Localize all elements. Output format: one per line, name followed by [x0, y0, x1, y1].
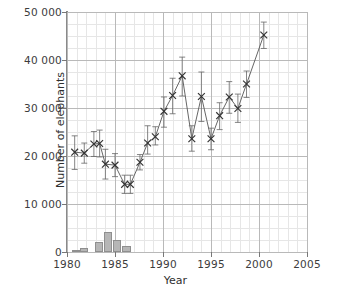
gridline-major-v: [307, 12, 308, 252]
line-series-elephants: [67, 12, 307, 252]
plot-area: [67, 12, 307, 252]
y-tick-label: 0: [55, 246, 62, 258]
x-tick-mark: [259, 252, 260, 257]
x-axis-title: Year: [0, 274, 351, 287]
error-bar: [145, 126, 151, 154]
y-tick-label: 40 000: [24, 54, 62, 66]
x-tick-mark: [307, 252, 308, 257]
x-tick-mark: [115, 252, 116, 257]
x-tick-label: 2000: [245, 258, 273, 270]
gridline-major-h: [67, 252, 307, 253]
y-tick-label: 10 000: [24, 198, 62, 210]
y-tick-label: 20 000: [24, 150, 62, 162]
x-tick-mark: [67, 252, 68, 257]
x-tick-mark: [211, 252, 212, 257]
elephant-population-chart: Number of elephants 010 00020 00030 0004…: [0, 0, 351, 291]
x-tick-label: 1990: [149, 258, 177, 270]
y-axis-tick-labels: 010 00020 00030 00040 00050 000: [0, 12, 62, 252]
x-tick-mark: [163, 252, 164, 257]
x-tick-label: 1995: [197, 258, 225, 270]
x-tick-label: 1980: [53, 258, 81, 270]
x-tick-label: 1985: [101, 258, 129, 270]
y-tick-label: 30 000: [24, 102, 62, 114]
y-tick-label: 50 000: [24, 6, 62, 18]
x-tick-label: 2005: [293, 258, 321, 270]
x-axis-tick-labels: 198019851990199520002005: [67, 0, 307, 1]
